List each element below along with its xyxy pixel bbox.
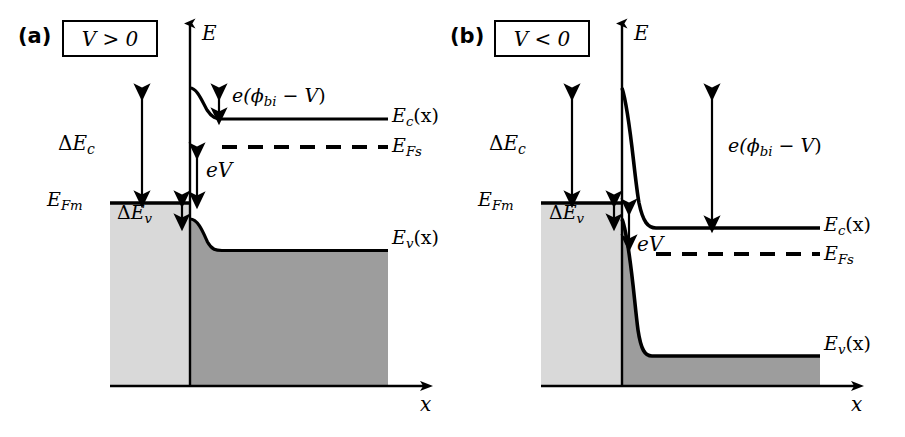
- panel-b-delta-ec-symbol: Δ: [489, 131, 503, 155]
- panel-a-barrier-label: e(ϕbi − V): [232, 86, 326, 105]
- panel-a-ev-base: E: [392, 226, 406, 248]
- panel-a-efs-label: EFs: [392, 136, 422, 155]
- panel-a-barrier-post: ): [318, 84, 325, 106]
- panel-b-ev-label: Ev(x): [824, 334, 871, 353]
- panel-b-e-axis-label: E: [634, 21, 649, 45]
- panel-b-barrier-phi: ϕ: [747, 134, 760, 156]
- panel-b-delta-ec-subscript: c: [518, 141, 526, 157]
- panel-b-tag: (b): [450, 24, 484, 48]
- panel-b-ev-base: E: [824, 332, 838, 354]
- panel-b-delta-ev-symbol: Δ: [549, 201, 563, 223]
- panel-b-metal-region: [541, 203, 622, 386]
- panel-a-ev-arg: (x): [413, 226, 439, 248]
- panel-b-delta-ev-label: ΔEv: [549, 203, 584, 222]
- panel-b-efm-subscript: Fm: [492, 198, 514, 213]
- panel-b-condition-box: V < 0: [494, 20, 590, 57]
- panel-a-ev-curve: [190, 219, 388, 251]
- panel-a-condition-box: V > 0: [62, 20, 158, 57]
- panel-b-barrier-voltage: V: [800, 134, 814, 156]
- panel-b-efm-base: E: [478, 188, 492, 210]
- panel-b-ev-subscript: v: [838, 342, 846, 357]
- panel-b-barrier-subscript: bi: [760, 144, 773, 159]
- panel-b-ec-curve: [622, 88, 820, 228]
- panel-b-barrier-post: ): [814, 134, 821, 156]
- panel-b-ec-label: Ec(x): [824, 215, 871, 234]
- panel-a-efs-base: E: [392, 134, 406, 156]
- panel-b-efs-base: E: [824, 242, 838, 264]
- panel-a-barrier-voltage: V: [304, 84, 318, 106]
- panel-b-x-axis-label: x: [851, 392, 862, 416]
- panel-a-barrier-phi: ϕ: [251, 84, 264, 106]
- panel-a-metal-region: [110, 203, 190, 386]
- panel-b-condition-text: V < 0: [514, 27, 571, 51]
- panel-b-ev-bias-label: eV: [637, 234, 663, 254]
- panel-b-delta-ev-subscript: v: [577, 211, 585, 226]
- panel-b-efs-subscript: Fs: [838, 252, 854, 267]
- panel-a-delta-ec-label: ΔEc: [58, 133, 95, 153]
- panel-a-barrier-subscript: bi: [264, 94, 277, 109]
- panel-a-ev-label: Ev(x): [392, 228, 439, 247]
- panel-b-barrier-pre: e(: [728, 134, 747, 156]
- panel-a-efm-base: E: [47, 188, 61, 210]
- panel-a-barrier-minus: −: [276, 84, 304, 106]
- panel-a-efm-label: EFm: [47, 190, 83, 209]
- panel-a-delta-ev-subscript: v: [145, 211, 153, 226]
- panel-a-barrier-pre: e(: [232, 84, 251, 106]
- panel-a-x-axis-label: x: [420, 392, 431, 416]
- panel-a-tag: (a): [18, 24, 51, 48]
- panel-a-efm-subscript: Fm: [61, 198, 83, 213]
- panel-a-e-axis-label: E: [202, 21, 217, 45]
- panel-a-efs-subscript: Fs: [406, 144, 422, 159]
- panel-a-condition-text: V > 0: [82, 27, 139, 51]
- panel-a-delta-ec-subscript: c: [87, 141, 95, 157]
- panel-a-ec-subscript: c: [406, 114, 413, 129]
- panel-b-delta-ec-base: E: [503, 131, 518, 155]
- panel-a-ev-bias-label: eV: [206, 160, 232, 180]
- panel-a-ec-arg: (x): [413, 104, 439, 126]
- panel-b-efm-label: EFm: [478, 190, 514, 209]
- panel-b-barrier-label: e(ϕbi − V): [728, 136, 822, 155]
- panel-b-barrier-minus: −: [772, 134, 800, 156]
- panel-b-ec-arg: (x): [845, 213, 871, 235]
- figure-canvas: (a) V > 0 E x Ec(x) EFs Ev(x) EFm ΔEc ΔE…: [0, 0, 905, 437]
- panel-a-delta-ec-base: E: [72, 131, 87, 155]
- panel-b-ev-arg: (x): [845, 332, 871, 354]
- panel-a-delta-ev-base: E: [131, 201, 145, 223]
- panel-b-ec-subscript: c: [838, 223, 845, 238]
- panel-a-delta-ev-symbol: Δ: [117, 201, 131, 223]
- panel-a-graphics: [110, 24, 427, 386]
- panel-b-ec-base: E: [824, 213, 838, 235]
- panel-a-ec-base: E: [392, 104, 406, 126]
- panel-b-graphics: [541, 24, 858, 386]
- panel-a-ec-label: Ec(x): [392, 106, 439, 125]
- panel-b-efs-label: EFs: [824, 244, 854, 263]
- panel-b-delta-ec-label: ΔEc: [489, 133, 526, 153]
- panel-a-ev-subscript: v: [406, 236, 414, 251]
- panel-b-delta-ev-base: E: [563, 201, 577, 223]
- panel-a-delta-ev-label: ΔEv: [117, 203, 152, 222]
- panel-a-delta-ec-symbol: Δ: [58, 131, 72, 155]
- panel-a-semiconductor-region: [190, 219, 388, 386]
